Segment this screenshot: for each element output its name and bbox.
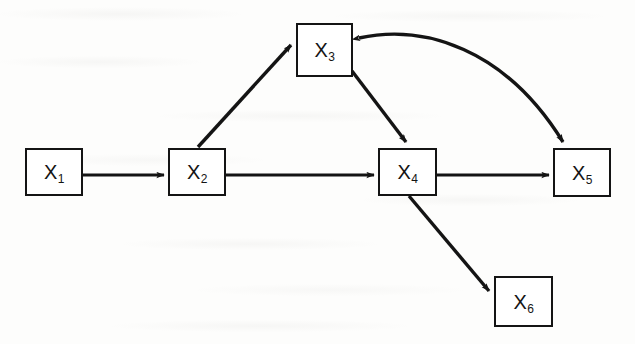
node-x6[interactable]: X6 bbox=[494, 276, 553, 327]
node-x5[interactable]: X5 bbox=[553, 148, 611, 197]
node-x1[interactable]: X1 bbox=[25, 148, 83, 196]
edge-x3-x5-curved-feedback bbox=[359, 34, 563, 142]
node-x2[interactable]: X2 bbox=[168, 148, 226, 196]
node-x6-label: X6 bbox=[513, 292, 533, 312]
node-x4[interactable]: X4 bbox=[378, 148, 437, 196]
causal-diagram-figure: X1 X2 X3 X4 X5 X6 bbox=[0, 0, 635, 344]
node-x3[interactable]: X3 bbox=[296, 23, 353, 77]
node-x3-label: X3 bbox=[314, 40, 334, 60]
edge-x3-to-x4 bbox=[352, 71, 406, 142]
node-x2-label: X2 bbox=[187, 162, 207, 182]
node-x1-label: X1 bbox=[44, 162, 64, 182]
edge-x4-to-x6 bbox=[409, 196, 489, 291]
node-x5-label: X5 bbox=[572, 163, 592, 183]
edge-x2-to-x3 bbox=[198, 45, 291, 147]
node-x4-label: X4 bbox=[397, 162, 417, 182]
